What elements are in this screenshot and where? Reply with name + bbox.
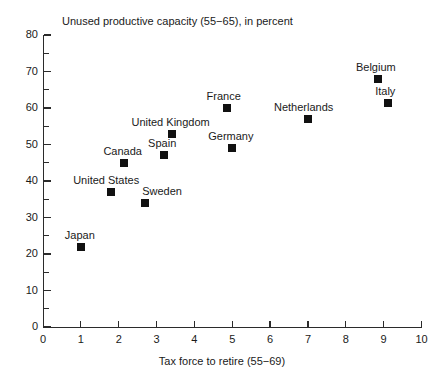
data-point-marker bbox=[374, 75, 382, 83]
data-point-label: Spain bbox=[148, 137, 176, 149]
x-tick-9 bbox=[383, 321, 384, 328]
y-tick-10 bbox=[44, 290, 51, 291]
y-tick-label-20: 20 bbox=[14, 248, 38, 259]
data-point-label: Germany bbox=[208, 130, 253, 142]
x-tick-2 bbox=[118, 321, 119, 328]
x-tick-7 bbox=[307, 321, 308, 328]
y-minor-tick-75 bbox=[44, 53, 49, 54]
x-tick-4 bbox=[194, 321, 195, 328]
y-tick-80 bbox=[44, 34, 51, 35]
x-tick-label-3: 3 bbox=[142, 334, 172, 345]
x-tick-6 bbox=[269, 321, 270, 328]
x-tick-8 bbox=[345, 321, 346, 328]
data-point-label: Canada bbox=[103, 145, 142, 157]
x-tick-1 bbox=[80, 321, 81, 328]
y-tick-label-80: 80 bbox=[14, 29, 38, 40]
y-tick-0 bbox=[44, 326, 51, 327]
y-minor-tick-25 bbox=[44, 235, 49, 236]
data-point-marker bbox=[223, 104, 231, 112]
y-tick-label-0: 0 bbox=[14, 321, 38, 332]
x-tick-label-6: 6 bbox=[255, 334, 285, 345]
data-point-marker bbox=[168, 130, 176, 138]
y-tick-60 bbox=[44, 107, 51, 108]
y-tick-label-60: 60 bbox=[14, 102, 38, 113]
data-point-label: France bbox=[207, 90, 241, 102]
x-tick-label-9: 9 bbox=[369, 334, 399, 345]
data-point-marker bbox=[384, 99, 392, 107]
data-point-label: United States bbox=[73, 174, 139, 186]
y-minor-tick-45 bbox=[44, 162, 49, 163]
y-tick-label-50: 50 bbox=[14, 139, 38, 150]
y-minor-tick-65 bbox=[44, 89, 49, 90]
x-tick-label-10: 10 bbox=[407, 334, 437, 345]
scatter-chart: Unused productive capacity (55−65), in p… bbox=[0, 0, 444, 381]
x-tick-label-2: 2 bbox=[104, 334, 134, 345]
chart-title: Unused productive capacity (55−65), in p… bbox=[62, 15, 293, 28]
x-tick-label-0: 0 bbox=[28, 334, 58, 345]
y-tick-30 bbox=[44, 217, 51, 218]
x-tick-label-8: 8 bbox=[331, 334, 361, 345]
data-point-marker bbox=[304, 115, 312, 123]
y-tick-40 bbox=[44, 180, 51, 181]
x-tick-label-5: 5 bbox=[217, 334, 247, 345]
y-tick-20 bbox=[44, 253, 51, 254]
x-tick-label-4: 4 bbox=[179, 334, 209, 345]
y-tick-50 bbox=[44, 144, 51, 145]
data-point-marker bbox=[141, 199, 149, 207]
y-minor-tick-15 bbox=[44, 272, 49, 273]
y-minor-tick-35 bbox=[44, 199, 49, 200]
y-tick-label-70: 70 bbox=[14, 66, 38, 77]
data-point-label: Netherlands bbox=[274, 101, 333, 113]
data-point-marker bbox=[77, 243, 85, 251]
x-tick-10 bbox=[421, 321, 422, 328]
y-minor-tick-5 bbox=[44, 308, 49, 309]
y-tick-70 bbox=[44, 71, 51, 72]
y-minor-tick-55 bbox=[44, 126, 49, 127]
x-axis-label: Tax force to retire (55−69) bbox=[0, 355, 444, 368]
data-point-label: Belgium bbox=[356, 61, 396, 73]
data-point-label: Italy bbox=[375, 85, 395, 97]
y-tick-label-40: 40 bbox=[14, 175, 38, 186]
data-point-label: Japan bbox=[65, 229, 95, 241]
x-tick-5 bbox=[232, 321, 233, 328]
data-point-marker bbox=[228, 144, 236, 152]
data-point-marker bbox=[160, 151, 168, 159]
data-point-label: Sweden bbox=[142, 185, 182, 197]
x-tick-label-1: 1 bbox=[66, 334, 96, 345]
data-point-marker bbox=[120, 159, 128, 167]
x-tick-3 bbox=[156, 321, 157, 328]
x-tick-label-7: 7 bbox=[293, 334, 323, 345]
data-point-label: United Kingdom bbox=[131, 116, 209, 128]
y-tick-label-30: 30 bbox=[14, 212, 38, 223]
y-tick-label-10: 10 bbox=[14, 285, 38, 296]
data-point-marker bbox=[107, 188, 115, 196]
